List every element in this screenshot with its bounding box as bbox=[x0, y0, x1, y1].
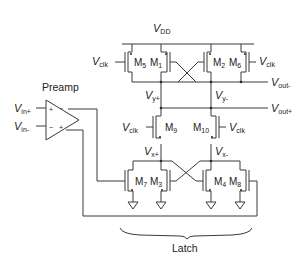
label-m5: M5 bbox=[134, 57, 146, 69]
transistor-m9: M9 bbox=[146, 116, 177, 144]
transistor-m7: M7 bbox=[125, 161, 147, 202]
label-m1: M1 bbox=[150, 57, 162, 69]
preamp-label: Preamp bbox=[42, 81, 79, 93]
ground-icons bbox=[128, 202, 245, 209]
svg-text:−: − bbox=[49, 124, 53, 131]
latch-brace bbox=[120, 228, 252, 239]
label-m6: M6 bbox=[229, 57, 241, 69]
circuit-schematic: VDD M5 Vclk M1 M2 bbox=[0, 0, 305, 258]
label-m2: M2 bbox=[213, 57, 225, 69]
label-m9: M9 bbox=[165, 122, 177, 134]
vclk-label-m10: Vclk bbox=[229, 121, 245, 134]
vy-plus-label: Vy+ bbox=[145, 89, 160, 103]
vx-plus-label: Vx+ bbox=[144, 145, 159, 158]
transistor-m4: M4 bbox=[203, 161, 226, 202]
svg-text:+: + bbox=[59, 124, 63, 131]
transistor-m6: M6 bbox=[229, 44, 256, 82]
vin-minus-label: Vin- bbox=[14, 120, 30, 133]
vx-minus-label: Vx- bbox=[215, 145, 229, 158]
vdd-label: VDD bbox=[153, 22, 170, 35]
vclk-label-m9: Vclk bbox=[122, 121, 138, 134]
svg-text:−: − bbox=[59, 105, 63, 112]
vclk-label-m5: Vclk bbox=[92, 55, 108, 68]
label-m8: M8 bbox=[229, 176, 241, 188]
transistor-m8: M8 bbox=[229, 161, 256, 202]
label-m4: M4 bbox=[214, 176, 226, 188]
vin-plus-label: Vin+ bbox=[14, 102, 31, 115]
label-m7: M7 bbox=[135, 176, 147, 188]
label-m3: M3 bbox=[150, 176, 162, 188]
vout-plus-label: Vout+ bbox=[271, 102, 292, 115]
latch-label: Latch bbox=[172, 242, 198, 254]
transistor-m3: M3 bbox=[150, 161, 170, 202]
vy-minus-label: Vy- bbox=[215, 89, 229, 103]
vclk-label-m6: Vclk bbox=[259, 55, 275, 68]
svg-text:+: + bbox=[49, 106, 53, 113]
preamp-out-to-m7 bbox=[68, 109, 125, 181]
vout-minus-label: Vout- bbox=[271, 76, 291, 89]
transistor-m10: M10 bbox=[193, 116, 226, 144]
transistor-m5: M5 bbox=[115, 44, 146, 82]
